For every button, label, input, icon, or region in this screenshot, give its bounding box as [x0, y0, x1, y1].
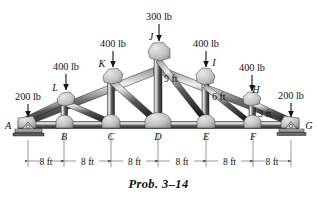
joint-label-K: K [98, 58, 107, 69]
load-label-L: 400 lb [53, 61, 79, 72]
load-label-I: 400 lb [193, 38, 219, 49]
span-label-6: 8 ft [265, 156, 278, 167]
span-label-4: 8 ft [175, 156, 188, 167]
top-chord-right [163, 68, 297, 129]
joint-gusset-K [103, 69, 123, 85]
joint-gusset-C [102, 115, 120, 129]
height-label-6ft: 6 ft [212, 91, 226, 102]
span-label-1: 8 ft [39, 156, 52, 167]
span-label-3: 8 ft [128, 156, 141, 167]
truss-diagram: 200 lb 400 lb 400 lb 300 lb 400 lb 400 l… [0, 0, 317, 198]
height-label-3ft: 3 ft [258, 108, 272, 119]
load-label-K: 400 lb [100, 38, 126, 49]
joint-gusset-I [196, 68, 215, 85]
span-label-5: 8 ft [223, 156, 236, 167]
joint-label-H: H [251, 84, 260, 95]
figure-caption: Prob. 3–14 [0, 177, 317, 192]
joint-gusset-L [57, 92, 75, 106]
load-label-H: 400 lb [239, 62, 265, 73]
joint-gusset-E [197, 115, 215, 129]
joint-label-G: G [305, 120, 313, 131]
joint-gusset-B [56, 115, 73, 128]
joint-label-I: I [211, 57, 216, 68]
load-label-J: 300 lb [146, 11, 172, 22]
span-label-2: 8 ft [81, 156, 94, 167]
joint-label-J: J [149, 31, 154, 42]
joint-label-L: L [51, 82, 58, 93]
load-label-G: 200 lb [278, 90, 304, 101]
height-label-9ft: 9 ft [164, 73, 178, 84]
load-label-A: 200 lb [15, 91, 41, 102]
joint-gusset-J [148, 43, 170, 62]
joint-label-A: A [4, 120, 12, 131]
diagonal-member-JE [156, 58, 208, 123]
